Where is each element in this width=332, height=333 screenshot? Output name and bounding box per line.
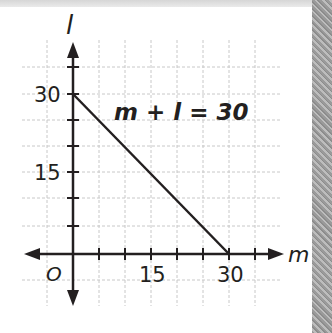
y-tick-30: 30 <box>34 83 61 107</box>
coordinate-graph: l m O 30 15 15 30 m + l = 30 <box>0 0 332 333</box>
ticks <box>67 67 255 260</box>
x-tick-15: 15 <box>139 263 166 287</box>
y-tick-15: 15 <box>34 161 61 185</box>
x-axis-label: m <box>288 242 309 267</box>
y-axis-label: l <box>66 10 74 40</box>
x-tick-30: 30 <box>217 263 244 287</box>
equation-label: m + l = 30 <box>114 99 248 125</box>
origin-label: O <box>46 262 62 286</box>
